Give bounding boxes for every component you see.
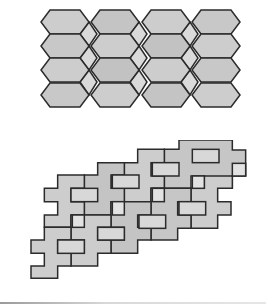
hexagon-tessellation-graphic	[0, 0, 266, 120]
cross-tessellation-graphic	[0, 140, 266, 304]
hexagon-rhombus-tessellation	[0, 0, 266, 120]
cross-tile-tessellation	[0, 140, 266, 304]
